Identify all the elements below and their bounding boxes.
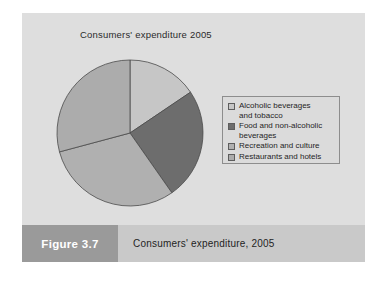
chart-area: Consumers' expenditure 2005 Alcoholic be… (22, 13, 365, 225)
legend-swatch-icon (228, 143, 235, 150)
chart-title: Consumers' expenditure 2005 (80, 29, 212, 40)
pie-chart-svg (55, 58, 205, 208)
figure-caption-label: Consumers' expenditure, 2005 (133, 238, 274, 249)
figure-root: Consumers' expenditure 2005 Alcoholic be… (0, 0, 385, 281)
figure-caption-bar: Figure 3.7 Consumers' expenditure, 2005 (22, 225, 365, 262)
legend-item-restaurants-and-hotels: Restaurants and hotels (228, 152, 335, 162)
legend-item-recreation-and-culture: Recreation and culture (228, 141, 335, 151)
chart-legend: Alcoholic beverages and tobacco Food and… (222, 96, 340, 164)
legend-swatch-icon (228, 103, 235, 110)
legend-item-alcoholic-beverages-and-tobacco: Alcoholic beverages and tobacco (228, 101, 335, 120)
legend-item-food-and-non-alcoholic-beverages: Food and non-alcoholic beverages (228, 121, 335, 140)
figure-caption-wrap: Consumers' expenditure, 2005 (118, 225, 365, 262)
pie-chart (55, 58, 205, 208)
legend-label: Food and non-alcoholic beverages (239, 121, 322, 140)
figure-number-label: Figure 3.7 (41, 238, 98, 250)
legend-label: Recreation and culture (239, 141, 320, 151)
pie-slices (57, 60, 203, 206)
figure-number-badge: Figure 3.7 (22, 225, 118, 262)
legend-swatch-icon (228, 123, 235, 130)
legend-swatch-icon (228, 154, 235, 161)
figure-panel: Consumers' expenditure 2005 Alcoholic be… (22, 13, 365, 262)
legend-label: Alcoholic beverages and tobacco (239, 101, 311, 120)
legend-label: Restaurants and hotels (239, 152, 321, 162)
